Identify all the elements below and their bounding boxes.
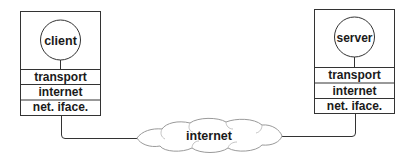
internet-cloud-label: internet <box>186 129 233 143</box>
client-host: client transport internet net. iface. <box>21 12 101 116</box>
server-app-label: server <box>336 31 372 45</box>
client-network-link <box>62 116 138 139</box>
client-layer-transport: transport <box>34 70 87 84</box>
server-host: server transport internet net. iface. <box>315 10 395 114</box>
client-app-label: client <box>44 34 77 48</box>
client-layer-internet: internet <box>38 85 82 99</box>
client-layer-net-iface: net. iface. <box>33 100 88 114</box>
diagram-canvas: client transport internet net. iface. se… <box>0 0 411 162</box>
internet-cloud: internet <box>137 118 282 152</box>
server-network-link <box>282 114 356 137</box>
server-layer-net-iface: net. iface. <box>327 99 382 113</box>
server-layer-transport: transport <box>328 68 381 82</box>
server-layer-internet: internet <box>332 84 376 98</box>
